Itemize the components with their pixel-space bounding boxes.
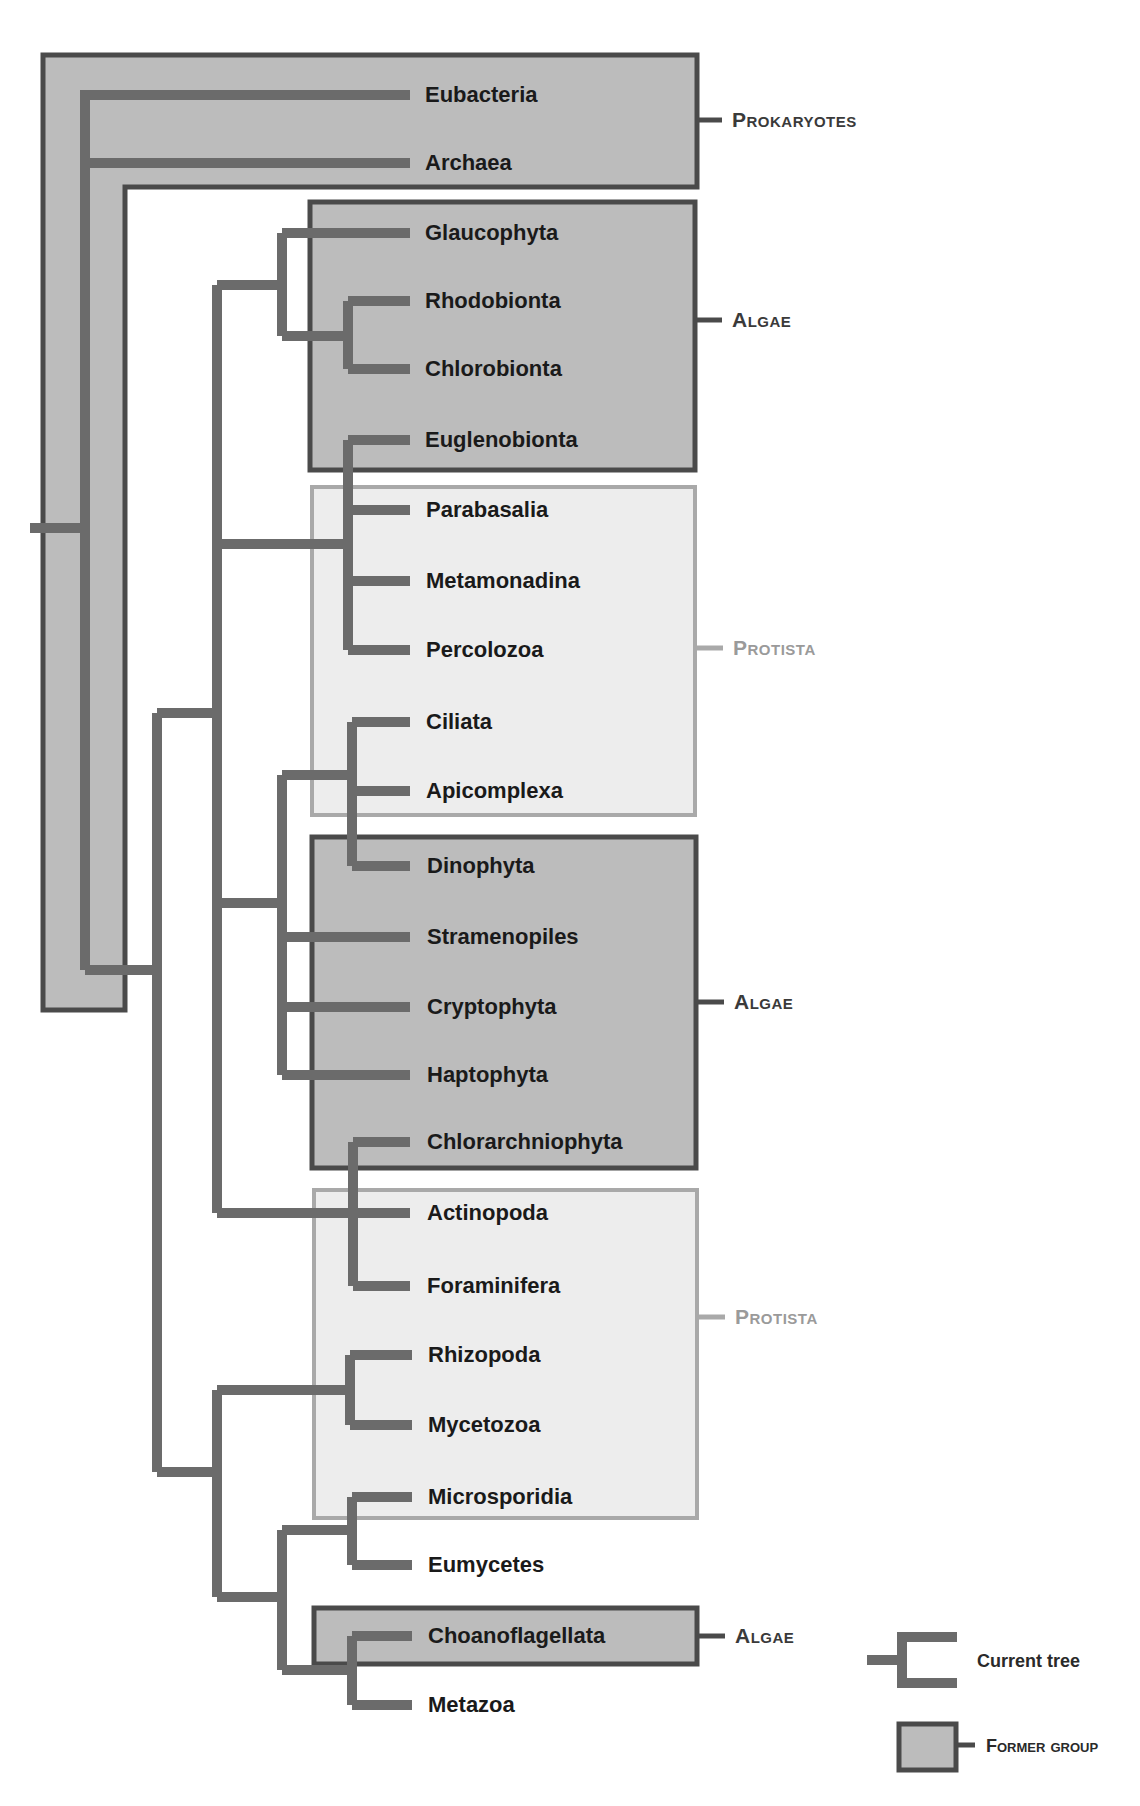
leaf-label-metazoa: Metazoa — [428, 1692, 516, 1717]
group-label-algae-2-text: Algae — [734, 990, 793, 1013]
leaf-label-foraminifera: Foraminifera — [427, 1273, 561, 1298]
leaf-label-rhodobionta: Rhodobionta — [425, 288, 561, 313]
leaf-label-dinophyta: Dinophyta — [427, 853, 535, 878]
leaf-label-ciliata: Ciliata — [426, 709, 493, 734]
leaf-label-parabasalia: Parabasalia — [426, 497, 549, 522]
legend-former-group-icon — [899, 1724, 956, 1770]
legend-former-group-text: Former group — [986, 1736, 1098, 1756]
leaf-label-rhizopoda: Rhizopoda — [428, 1342, 541, 1367]
group-label-algae-2: Algae — [734, 990, 793, 1013]
leaf-label-glaucophyta: Glaucophyta — [425, 220, 559, 245]
phylogenetic-tree-diagram: Eubacteria Archaea Glaucophyta Rhodobion… — [0, 0, 1140, 1806]
group-label-prokaryotes-text: Prokaryotes — [732, 108, 857, 131]
leaf-label-haptophyta: Haptophyta — [427, 1062, 549, 1087]
group-label-algae-3: Algae — [735, 1624, 794, 1647]
leaf-label-mycetozoa: Mycetozoa — [428, 1412, 541, 1437]
legend: Current tree Former group — [867, 1637, 1098, 1770]
leaf-label-chlorobionta: Chlorobionta — [425, 356, 563, 381]
group-label-protista-1-text: Protista — [733, 636, 816, 659]
group-label-algae-1: Algae — [732, 308, 791, 331]
leaf-label-eubacteria: Eubacteria — [425, 82, 538, 107]
group-label-prokaryotes: Prokaryotes — [732, 108, 857, 131]
leaf-label-archaea: Archaea — [425, 150, 513, 175]
group-label-protista-1: Protista — [733, 636, 816, 659]
leaf-label-actinopoda: Actinopoda — [427, 1200, 549, 1225]
leaf-label-euglenobionta: Euglenobionta — [425, 427, 579, 452]
group-label-protista-2-text: Protista — [735, 1305, 818, 1328]
legend-current-tree-icon — [867, 1637, 957, 1683]
leaf-label-choanoflagellata: Choanoflagellata — [428, 1623, 606, 1648]
leaf-label-apicomplexa: Apicomplexa — [426, 778, 564, 803]
group-label-algae-1-text: Algae — [732, 308, 791, 331]
leaf-label-eumycetes: Eumycetes — [428, 1552, 544, 1577]
group-label-protista-2: Protista — [735, 1305, 818, 1328]
legend-former-group-label: Former group — [986, 1736, 1098, 1756]
leaf-label-cryptophyta: Cryptophyta — [427, 994, 557, 1019]
leaf-label-stramenopiles: Stramenopiles — [427, 924, 579, 949]
leaf-label-metamonadina: Metamonadina — [426, 568, 581, 593]
group-labels: Prokaryotes Algae Protista Algae Protist… — [732, 108, 857, 1647]
leaf-label-percolozoa: Percolozoa — [426, 637, 544, 662]
legend-current-tree-label: Current tree — [977, 1651, 1080, 1671]
group-label-algae-3-text: Algae — [735, 1624, 794, 1647]
leaf-label-microsporidia: Microsporidia — [428, 1484, 573, 1509]
group-connectors — [695, 120, 725, 1636]
leaf-label-chlorarchniophyta: Chlorarchniophyta — [427, 1129, 623, 1154]
